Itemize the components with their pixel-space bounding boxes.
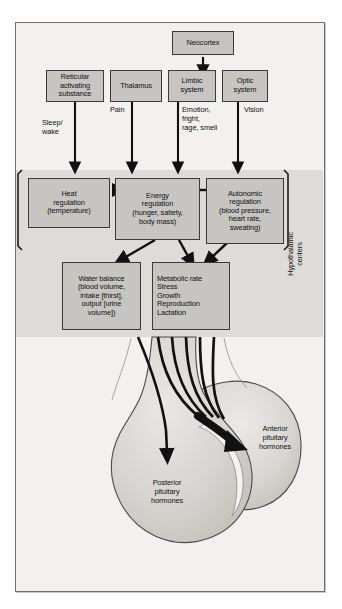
node-heat-regulation[interactable]: Heat regulation (temperature) xyxy=(28,178,110,228)
label-emotion-fright-rage-smell: Emotion, fright, rage, smell xyxy=(182,106,238,132)
node-reticular-activating-substance[interactable]: Reticular activating substance xyxy=(46,70,104,102)
node-autonomic-regulation[interactable]: Autonomic regulation (blood pressure, he… xyxy=(206,178,284,244)
arrow-energy-to-water xyxy=(124,240,155,258)
label-vision: Vision xyxy=(244,106,278,115)
label-pain: Pain xyxy=(110,106,140,115)
node-metabolic-rate[interactable]: Metabolic rate Stress Growth Reproductio… xyxy=(152,262,230,330)
node-limbic-system[interactable]: Limbic system xyxy=(168,70,216,102)
label-hypothalamic-centers: Hypothalamic centers xyxy=(286,199,304,309)
hypothalamic-centers-bracket xyxy=(18,170,22,250)
infundibulum-outline-left xyxy=(112,338,131,400)
node-optic-system[interactable]: Optic system xyxy=(222,70,268,102)
infundibulum-outline-right xyxy=(224,338,247,388)
label-posterior-pituitary-hormones: Posterior pituitary hormones xyxy=(130,478,204,505)
label-sleep-wake: Sleep/ wake xyxy=(42,119,82,137)
arrow-autonomic-to-metabolic xyxy=(211,243,227,258)
posterior-tract-arrowhead xyxy=(166,430,167,452)
node-neocortex[interactable]: Neocortex xyxy=(172,31,234,55)
hypothalamus-pituitary-diagram: Neocortex Reticular activating substance… xyxy=(0,0,342,609)
arrow-energy-to-metabolic xyxy=(179,240,189,258)
node-thalamus[interactable]: Thalamus xyxy=(110,70,162,102)
node-water-balance[interactable]: Water balance (blood volume, intake [thi… xyxy=(62,262,141,330)
node-energy-regulation[interactable]: Energy regulation (hunger, satiety, body… xyxy=(115,178,200,240)
label-anterior-pituitary-hormones: Anterior pituitary hormones xyxy=(243,424,307,451)
